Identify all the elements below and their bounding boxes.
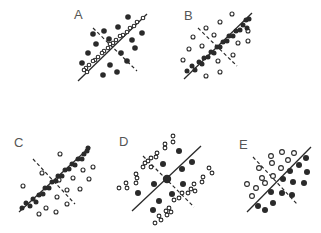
open-data-point — [155, 151, 159, 155]
open-data-point — [91, 59, 95, 63]
open-data-point — [96, 55, 100, 59]
filled-data-point — [41, 192, 46, 197]
open-data-point — [254, 186, 259, 191]
open-data-point — [246, 39, 250, 43]
open-data-point — [210, 171, 214, 175]
open-data-point — [58, 152, 62, 156]
open-data-point — [280, 150, 285, 155]
open-data-point — [117, 186, 121, 190]
open-data-point — [187, 47, 191, 51]
filled-data-point — [290, 179, 296, 185]
filled-data-point — [100, 72, 106, 78]
filled-data-point — [218, 45, 223, 50]
open-data-point — [216, 59, 220, 63]
open-data-point — [245, 182, 250, 187]
filled-data-point — [160, 161, 166, 167]
open-data-point — [263, 181, 268, 186]
open-data-point — [91, 165, 95, 169]
open-data-point — [100, 51, 104, 55]
filled-data-point — [200, 62, 205, 67]
filled-data-point — [139, 30, 145, 36]
open-data-point — [134, 172, 138, 176]
filled-data-point — [244, 18, 249, 23]
open-data-point — [135, 20, 139, 24]
scatter-diagram-figure: A B C D E — [0, 0, 321, 233]
open-data-point — [71, 176, 75, 180]
filled-data-point — [241, 23, 246, 28]
open-data-point — [87, 63, 91, 67]
filled-data-point — [129, 37, 135, 43]
open-data-point — [154, 155, 158, 159]
open-data-point — [201, 175, 205, 179]
open-data-point — [85, 70, 89, 74]
dashed-orthogonal-line — [93, 28, 137, 71]
open-data-point — [125, 186, 129, 190]
panel-b: B — [181, 8, 252, 79]
open-data-point — [149, 165, 153, 169]
panel-a: A — [74, 7, 147, 81]
open-data-point — [204, 74, 208, 78]
filled-data-point — [54, 179, 59, 184]
filled-data-point — [80, 157, 85, 162]
filled-data-point — [24, 201, 29, 206]
open-data-point — [163, 146, 167, 150]
panel-label: D — [119, 134, 128, 149]
filled-data-point — [67, 167, 72, 172]
open-data-point — [286, 158, 291, 163]
filled-data-point — [118, 50, 124, 56]
filled-data-point — [296, 162, 302, 168]
filled-data-point — [193, 68, 198, 73]
open-data-point — [87, 177, 91, 181]
panel-label: E — [239, 137, 248, 152]
filled-data-point — [279, 190, 285, 196]
open-data-point — [186, 191, 190, 195]
filled-data-point — [73, 163, 78, 168]
filled-data-point — [151, 181, 157, 187]
open-data-point — [169, 210, 173, 214]
open-data-point — [65, 202, 69, 206]
panel-label: C — [14, 135, 23, 150]
open-data-point — [257, 166, 262, 171]
filled-data-point — [185, 69, 190, 74]
panel-label: A — [74, 7, 83, 22]
filled-data-point — [304, 169, 310, 175]
filled-data-point — [231, 34, 236, 39]
open-data-point — [44, 206, 48, 210]
open-data-point — [114, 38, 118, 42]
open-data-point — [37, 212, 41, 216]
filled-data-point — [79, 60, 85, 66]
open-data-point — [250, 194, 255, 199]
center-data-point — [163, 175, 171, 183]
filled-data-point — [115, 24, 121, 30]
open-data-point — [165, 213, 169, 217]
open-data-point — [40, 171, 44, 175]
open-data-point — [171, 140, 175, 144]
open-data-point — [200, 44, 204, 48]
open-data-point — [172, 198, 176, 202]
open-data-point — [271, 174, 276, 179]
filled-data-point — [28, 204, 33, 209]
panel-e: E — [239, 137, 311, 213]
open-data-point — [163, 142, 167, 146]
filled-data-point — [303, 155, 309, 161]
open-data-point — [153, 221, 157, 225]
open-data-point — [200, 180, 204, 184]
filled-data-point — [90, 31, 96, 37]
filled-data-point — [270, 200, 276, 206]
filled-data-point — [47, 186, 52, 191]
filled-data-point — [262, 207, 268, 213]
open-data-point — [135, 176, 139, 180]
open-data-point — [55, 195, 59, 199]
filled-data-point — [287, 168, 293, 174]
filled-data-point — [190, 64, 195, 69]
open-data-point — [270, 161, 275, 166]
filled-data-point — [132, 45, 138, 51]
open-data-point — [218, 70, 222, 74]
open-data-point — [159, 218, 163, 222]
open-data-point — [193, 189, 197, 193]
solid-regression-line — [247, 147, 311, 212]
filled-data-point — [20, 206, 25, 211]
open-data-point — [177, 196, 181, 200]
open-data-point — [230, 12, 234, 16]
open-data-point — [54, 210, 58, 214]
